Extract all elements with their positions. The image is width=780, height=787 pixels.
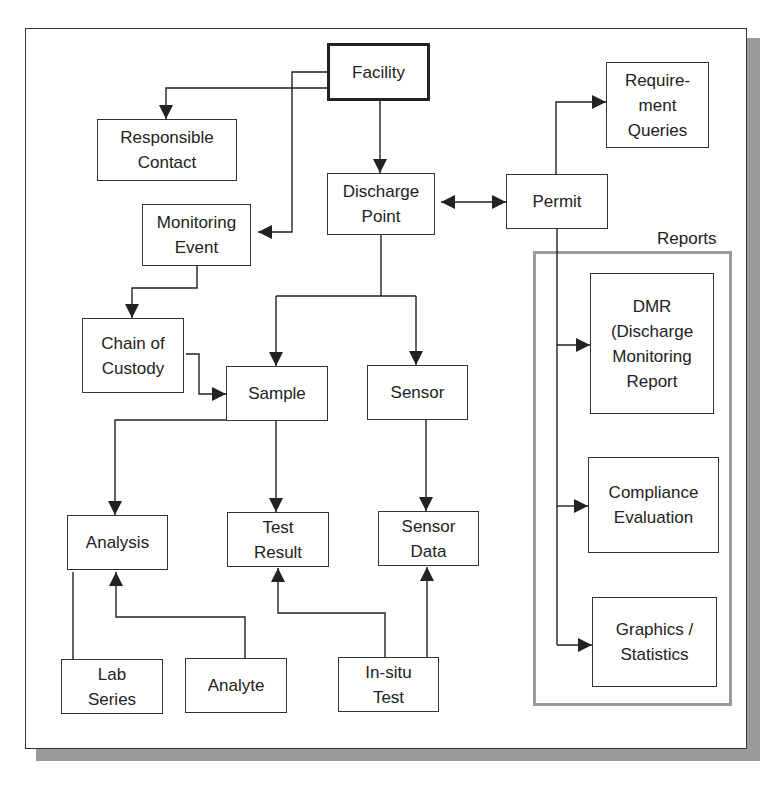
node-permit: Permit xyxy=(506,174,608,229)
node-analyte: Analyte xyxy=(185,658,287,713)
node-in-situ-test: In-situ Test xyxy=(338,657,439,712)
node-chain-of-custody: Chain of Custody xyxy=(82,318,184,393)
node-test-result: Test Result xyxy=(227,512,329,567)
node-analysis: Analysis xyxy=(67,515,168,570)
node-sample: Sample xyxy=(226,366,328,421)
edge-chain-sample xyxy=(186,354,226,394)
node-discharge-point: Discharge Point xyxy=(327,173,435,235)
node-sensor-data: Sensor Data xyxy=(378,511,479,566)
node-dmr: DMR (Discharge Monitoring Report xyxy=(590,273,714,414)
edge-permit-requirement-queries xyxy=(556,102,606,174)
edge-facility-monitoring-event xyxy=(258,72,328,232)
node-sensor: Sensor xyxy=(367,365,468,420)
node-compliance-evaluation: Compliance Evaluation xyxy=(588,457,719,553)
edge-insitu-test-result xyxy=(278,568,385,657)
edge-monitoring-chain xyxy=(132,266,197,318)
node-requirement-queries: Require- ment Queries xyxy=(606,62,709,148)
edge-facility-responsible-contact xyxy=(166,88,328,119)
diagram-canvas: Reports xyxy=(0,0,780,787)
node-monitoring-event: Monitoring Event xyxy=(142,204,251,266)
edge-analyte-analysis xyxy=(116,572,245,658)
edge-sample-analysis xyxy=(115,420,226,515)
node-facility: Facility xyxy=(327,43,430,101)
node-responsible-contact: Responsible Contact xyxy=(97,119,237,181)
node-graphics-statistics: Graphics / Statistics xyxy=(592,597,717,687)
node-lab-series: Lab Series xyxy=(61,659,163,714)
